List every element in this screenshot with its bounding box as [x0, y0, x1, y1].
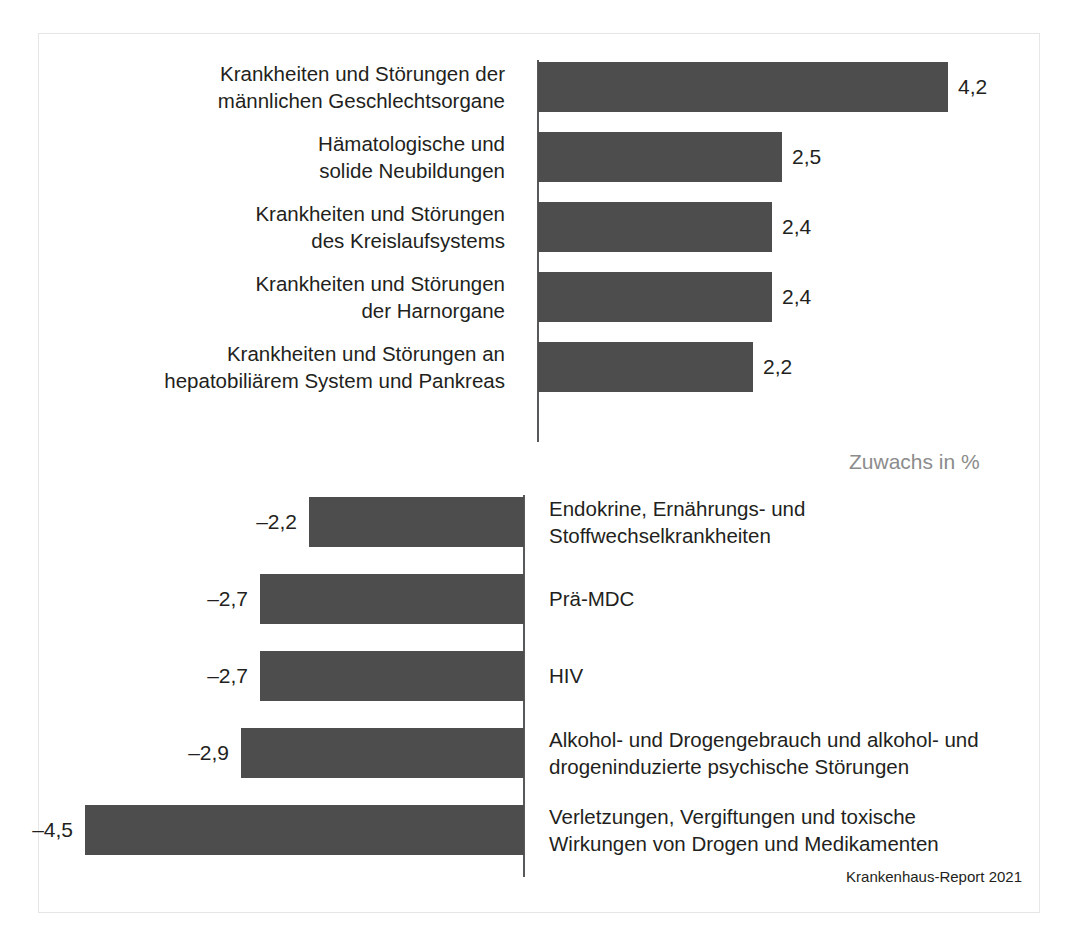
growth-bar-4 — [538, 342, 753, 392]
bar-row: –2,7 HIV — [0, 651, 1077, 701]
growth-bar-3 — [538, 272, 772, 322]
growth-panel: Krankheiten und Störungen der männlichen… — [0, 55, 1077, 445]
growth-category-label-3: Krankheiten und Störungen der Harnorgane — [85, 272, 505, 322]
decline-value-label-4: –4,5 — [5, 805, 73, 855]
decline-bar-2 — [260, 651, 524, 701]
bar-row: –2,7 Prä-MDC — [0, 574, 1077, 624]
bar-row: –4,5 Verletzungen, Vergiftungen und toxi… — [0, 805, 1077, 855]
bar-row: Krankheiten und Störungen des Kreislaufs… — [0, 202, 1077, 252]
growth-bar-0 — [538, 62, 948, 112]
bar-row: Hämatologische und solide Neubildungen 2… — [0, 132, 1077, 182]
growth-category-label-0: Krankheiten und Störungen der männlichen… — [85, 62, 505, 112]
decline-bar-1 — [260, 574, 524, 624]
bar-row: Krankheiten und Störungen der Harnorgane… — [0, 272, 1077, 322]
bar-row: –2,2 Endokrine, Ernährungs- und Stoffwec… — [0, 497, 1077, 547]
growth-bar-1 — [538, 132, 782, 182]
decline-category-label-0: Endokrine, Ernährungs- und Stoffwechselk… — [549, 497, 1019, 547]
decline-value-label-2: –2,7 — [180, 651, 248, 701]
decline-value-label-0: –2,2 — [229, 497, 297, 547]
decline-value-label-3: –2,9 — [161, 728, 229, 778]
decline-panel: –2,2 Endokrine, Ernährungs- und Stoffwec… — [0, 490, 1077, 880]
growth-value-label-3: 2,4 — [782, 272, 811, 322]
source-note: Krankenhaus-Report 2021 — [846, 868, 1022, 885]
growth-bar-2 — [538, 202, 772, 252]
growth-category-label-1: Hämatologische und solide Neubildungen — [85, 132, 505, 182]
decline-category-label-4: Verletzungen, Vergiftungen und toxische … — [549, 805, 1019, 855]
growth-value-label-4: 2,2 — [763, 342, 792, 392]
decline-bar-0 — [309, 497, 524, 547]
decline-value-label-1: –2,7 — [180, 574, 248, 624]
growth-value-label-1: 2,5 — [792, 132, 821, 182]
decline-category-label-3: Alkohol- und Drogengebrauch und alkohol-… — [549, 728, 1019, 778]
decline-bar-4 — [85, 805, 524, 855]
bar-row: –2,9 Alkohol- und Drogengebrauch und alk… — [0, 728, 1077, 778]
growth-value-label-2: 2,4 — [782, 202, 811, 252]
growth-axis-caption: Zuwachs in % — [849, 450, 980, 474]
decline-category-label-2: HIV — [549, 651, 1019, 701]
growth-category-label-2: Krankheiten und Störungen des Kreislaufs… — [85, 202, 505, 252]
growth-value-label-0: 4,2 — [958, 62, 987, 112]
growth-category-label-4: Krankheiten und Störungen an hepatobiliä… — [85, 342, 505, 392]
bar-row: Krankheiten und Störungen an hepatobiliä… — [0, 342, 1077, 392]
decline-category-label-1: Prä-MDC — [549, 574, 1019, 624]
decline-bar-3 — [241, 728, 524, 778]
chart-figure: Krankheiten und Störungen der männlichen… — [0, 0, 1077, 950]
bar-row: Krankheiten und Störungen der männlichen… — [0, 62, 1077, 112]
